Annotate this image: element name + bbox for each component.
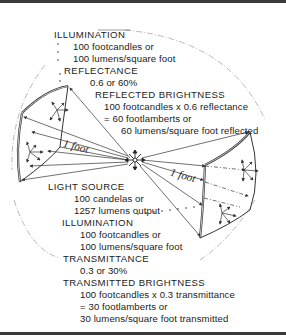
illumination-bottom-line1: 100 footcandles or xyxy=(80,229,161,240)
transmittance-heading: TRANSMITTANCE xyxy=(63,253,149,264)
reflected-brightness-line3: 60 lumens/square foot reflected xyxy=(121,125,259,136)
transmitted-brightness-line3: 30 lumens/square foot transmitted xyxy=(80,313,228,324)
light-source-heading: LIGHT SOURCE xyxy=(48,181,125,192)
reflected-brightness-line2: = 60 footlamberts or xyxy=(104,113,192,124)
transmitted-brightness-line2: = 30 footlamberts or xyxy=(80,301,168,312)
transmitting-surface xyxy=(200,132,256,238)
transmitted-brightness-line1: 100 footcandles x 0.3 transmittance xyxy=(80,289,235,300)
reflectance-value: 0.6 or 60% xyxy=(90,77,137,88)
transmission-arrows xyxy=(220,160,258,224)
reflectance-heading: REFLECTANCE xyxy=(64,65,138,76)
illumination-bottom-line2: 100 lumens/square foot xyxy=(80,241,182,252)
transmittance-value: 0.3 or 30% xyxy=(80,265,127,276)
light-source-line2: 1257 lumens output xyxy=(74,205,160,216)
illumination-top-heading: ILLUMINATION xyxy=(54,29,125,40)
light-source-line1: 100 candelas or xyxy=(74,193,144,204)
reflecting-surface xyxy=(18,86,68,182)
illumination-top-line1: 100 footcandles or xyxy=(73,41,154,52)
sphere-outline xyxy=(12,30,265,260)
reflected-brightness-heading: REFLECTED BRIGHTNESS xyxy=(95,89,225,100)
light-diagram: ILLUMINATION 100 footcandles or 100 lume… xyxy=(0,0,286,335)
illumination-bottom-heading: ILLUMINATION xyxy=(62,217,133,228)
light-source-star xyxy=(125,150,145,170)
transmitted-brightness-heading: TRANSMITTED BRIGHTNESS xyxy=(63,277,205,288)
reflected-brightness-line1: 100 footcandles x 0.6 reflectance xyxy=(104,101,248,112)
illumination-top-line2: 100 lumens/square foot xyxy=(73,53,175,64)
